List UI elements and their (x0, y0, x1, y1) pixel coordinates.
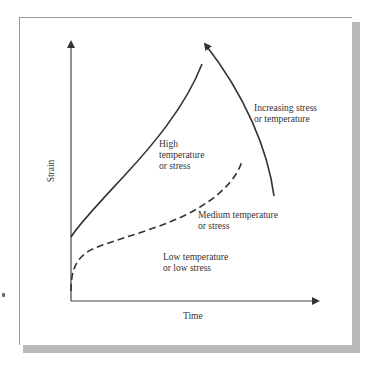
label-line: Increasing stress (254, 103, 317, 114)
high-temperature-label: High temperature or stress (159, 139, 204, 172)
increasing-stress-label: Increasing stress or temperature (254, 103, 317, 125)
label-line: Low temperature (163, 252, 228, 263)
label-line: or stress (159, 161, 204, 172)
low-temperature-label: Low temperature or low stress (163, 252, 228, 274)
label-line: Medium temperature (198, 210, 278, 221)
label-line: High (159, 139, 204, 150)
x-axis-label: Time (183, 311, 203, 321)
label-line: or stress (198, 221, 278, 232)
y-axis-label: Strain (46, 160, 56, 183)
label-line: or low stress (163, 263, 228, 274)
label-line: or temperature (254, 114, 317, 125)
medium-temperature-label: Medium temperature or stress (198, 210, 278, 232)
label-line: temperature (159, 150, 204, 161)
